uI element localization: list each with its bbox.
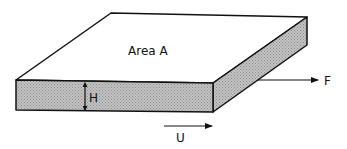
plate-front-face — [16, 80, 213, 112]
area-label: Area A — [128, 44, 168, 58]
height-label: H — [89, 91, 98, 105]
velocity-label: U — [176, 131, 185, 145]
force-label: F — [324, 74, 331, 88]
shear-plate-diagram: Area A H F U — [0, 0, 347, 149]
